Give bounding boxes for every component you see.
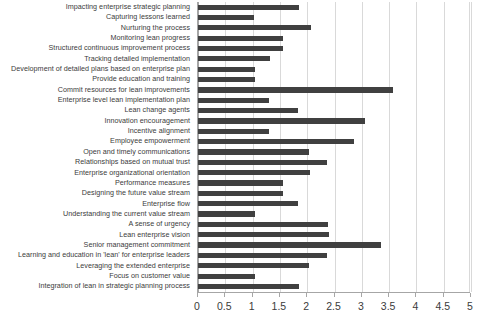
bar xyxy=(198,274,255,279)
x-tick-mark xyxy=(470,293,471,297)
bar-row xyxy=(198,178,469,188)
category-label: Focus on customer value xyxy=(0,271,194,281)
bar xyxy=(198,129,269,134)
x-tick-label: 0 xyxy=(194,300,200,312)
bar xyxy=(198,263,309,268)
bar xyxy=(198,180,283,185)
category-label: Provide education and training xyxy=(0,74,194,84)
bar xyxy=(198,201,298,206)
x-tick-label: 1 xyxy=(249,300,255,312)
category-label: Integration of lean in strategic plannin… xyxy=(0,281,194,291)
bar-row xyxy=(198,54,469,64)
bar-row xyxy=(198,250,469,260)
bar xyxy=(198,149,309,154)
bar xyxy=(198,139,354,144)
x-axis-line xyxy=(197,292,470,299)
bar xyxy=(198,191,283,196)
bar xyxy=(198,170,310,175)
category-label: Commit resources for lean improvements xyxy=(0,85,194,95)
bar-row xyxy=(198,136,469,146)
horizontal-bar-chart: Impacting enterprise strategic planningC… xyxy=(0,0,488,333)
bar xyxy=(198,77,255,82)
x-axis-tick-labels: 00.511.522.533.544.55 xyxy=(197,300,470,320)
x-tick-label: 3 xyxy=(358,300,364,312)
category-label: Enterprise organizational orientation xyxy=(0,168,194,178)
bar xyxy=(198,242,381,247)
bar xyxy=(198,56,270,61)
category-label: Learning and education in 'lean' for ent… xyxy=(0,250,194,260)
bar-row xyxy=(198,157,469,167)
bar-row xyxy=(198,209,469,219)
x-tick-label: 2.5 xyxy=(326,300,341,312)
category-label: Impacting enterprise strategic planning xyxy=(0,2,194,12)
x-tick-mark xyxy=(279,293,280,297)
bar xyxy=(198,15,254,20)
category-label: Open and timely communications xyxy=(0,147,194,157)
x-tick-mark xyxy=(252,293,253,297)
category-label: Employee empowerment xyxy=(0,136,194,146)
bar xyxy=(198,284,299,289)
bar-row xyxy=(198,281,469,291)
bar-row xyxy=(198,74,469,84)
bar-row xyxy=(198,240,469,250)
x-tick-mark xyxy=(388,293,389,297)
bar xyxy=(198,211,255,216)
bar xyxy=(198,36,283,41)
bar-row xyxy=(198,147,469,157)
x-tick-mark xyxy=(224,293,225,297)
bar-row xyxy=(198,261,469,271)
bar xyxy=(198,67,255,72)
category-label: Incentive alignment xyxy=(0,126,194,136)
gridline xyxy=(471,2,472,292)
x-tick-label: 0.5 xyxy=(217,300,232,312)
bar xyxy=(198,87,393,92)
category-label: Structured continuous improvement proces… xyxy=(0,43,194,53)
bar-row xyxy=(198,23,469,33)
bar-row xyxy=(198,199,469,209)
category-label: Tracking detailed implementation xyxy=(0,54,194,64)
x-tick-mark xyxy=(306,293,307,297)
bar xyxy=(198,222,328,227)
category-label: Relationships based on mutual trust xyxy=(0,157,194,167)
category-label: Performance measures xyxy=(0,178,194,188)
category-label: Lean enterprise vision xyxy=(0,230,194,240)
category-label: Leveraging the extended enterprise xyxy=(0,261,194,271)
category-label: Senior management commitment xyxy=(0,240,194,250)
category-label: Nurturing the process xyxy=(0,23,194,33)
x-tick-label: 3.5 xyxy=(381,300,396,312)
x-tick-mark xyxy=(361,293,362,297)
bar-row xyxy=(198,12,469,22)
bar-row xyxy=(198,85,469,95)
x-tick-label: 4.5 xyxy=(435,300,450,312)
bar xyxy=(198,253,327,258)
bars-layer xyxy=(198,2,469,292)
bar-row xyxy=(198,116,469,126)
x-tick-label: 1.5 xyxy=(272,300,287,312)
category-label: Understanding the current value stream xyxy=(0,209,194,219)
x-tick-label: 5 xyxy=(467,300,473,312)
bar-row xyxy=(198,95,469,105)
category-label: Enterprise flow xyxy=(0,199,194,209)
bar-row xyxy=(198,43,469,53)
bar xyxy=(198,232,329,237)
category-label: Lean change agents xyxy=(0,105,194,115)
category-label: Innovation encouragement xyxy=(0,116,194,126)
bar-row xyxy=(198,219,469,229)
bar xyxy=(198,46,283,51)
plot-area xyxy=(197,2,470,292)
bar-row xyxy=(198,126,469,136)
category-axis-labels: Impacting enterprise strategic planningC… xyxy=(0,2,194,292)
bar-row xyxy=(198,105,469,115)
bar-row xyxy=(198,271,469,281)
category-label: A sense of urgency xyxy=(0,219,194,229)
x-tick-label: 4 xyxy=(412,300,418,312)
category-label: Enterprise level lean implementation pla… xyxy=(0,95,194,105)
x-tick-mark xyxy=(415,293,416,297)
bar-row xyxy=(198,230,469,240)
category-label: Capturing lessons learned xyxy=(0,12,194,22)
category-label: Monitoring lean progress xyxy=(0,33,194,43)
x-tick-mark xyxy=(443,293,444,297)
category-label: Development of detailed plans based on e… xyxy=(0,64,194,74)
x-tick-mark xyxy=(334,293,335,297)
category-label: Designing the future value stream xyxy=(0,188,194,198)
